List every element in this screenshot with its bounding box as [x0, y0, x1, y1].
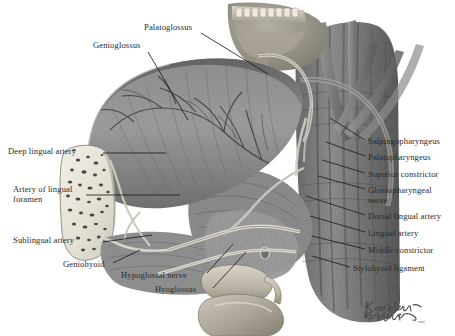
anatomy-illustration — [0, 0, 455, 336]
label-hyoglossus: Hyoglossus — [155, 284, 196, 294]
label-lingual-artery: Lingual artery — [368, 228, 418, 238]
label-palatopharyngeus: Palatopharyngeus — [368, 152, 431, 162]
label-geniohyoid: Geniohyoid — [63, 259, 105, 269]
label-line-2: nerve — [368, 195, 388, 205]
artist-signature: cmi — [362, 296, 450, 330]
label-artery-of-lingual-foramen: Artery of lingualforamen — [13, 184, 72, 204]
signature-suffix: cmi — [418, 319, 425, 324]
label-line-1: Glossopharyngeal — [368, 185, 432, 195]
label-line-2: foramen — [13, 194, 42, 204]
label-middle-constrictor: Middle constrictor — [368, 245, 434, 255]
label-hypoglossal-nerve: Hypoglossal nerve — [121, 270, 187, 280]
label-superior-constrictor: Superior constrictor — [368, 169, 439, 179]
label-deep-lingual-artery: Deep lingual artery — [8, 146, 76, 156]
label-genioglossus: Genioglossus — [93, 40, 141, 50]
label-palatoglossus: Palatoglossus — [144, 22, 192, 32]
label-glossopharyngeal-nerve: Glossopharyngealnerve — [368, 185, 432, 205]
label-salpingopharyngeus: Salpingopharyngeus — [368, 136, 440, 146]
label-line-1: Artery of lingual — [13, 184, 72, 194]
label-sublingual-artery: Sublingual artery — [13, 235, 74, 245]
label-stylohyoid-ligament: Stylohyoid ligament — [353, 263, 425, 273]
label-dorsal-lingual-artery: Dorsal lingual artery — [368, 211, 441, 221]
anatomical-plate: Palatoglossus Genioglossus Deep lingual … — [0, 0, 455, 336]
